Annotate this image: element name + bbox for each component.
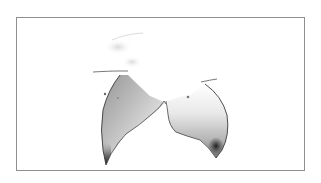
- right-shape: [166, 79, 228, 158]
- upper-smudge: [104, 33, 143, 68]
- left-shape: [93, 71, 166, 165]
- anatomical-illustration: [0, 0, 321, 183]
